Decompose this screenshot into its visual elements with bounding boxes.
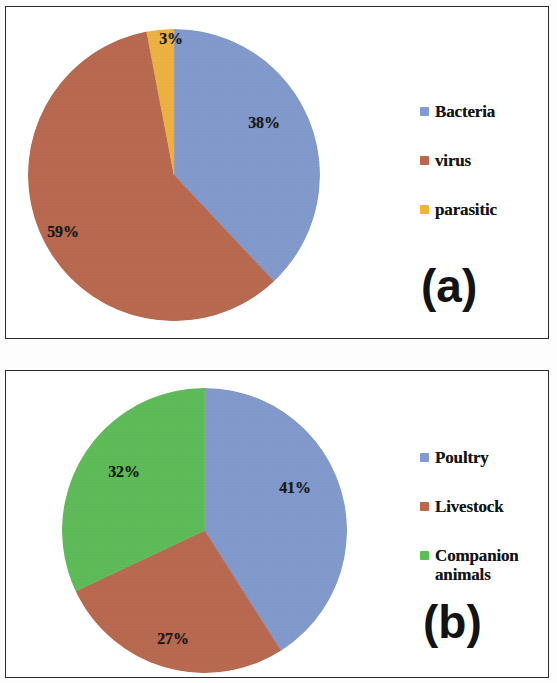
chart-panel-b: 41% 27% 32% Poultry Livestock Companion …	[5, 370, 549, 678]
pie-slices-b	[62, 388, 347, 673]
legend-item-companion-animals[interactable]: Companion animals	[420, 546, 543, 584]
figure-two-pie-charts: 38% 59% 3% Bacteria virus parasitic (a)	[0, 0, 557, 683]
pie-slices-a	[28, 29, 320, 321]
legend-a: Bacteria virus parasitic	[420, 102, 497, 249]
legend-swatch-bacteria	[420, 107, 429, 116]
legend-label-poultry: Poultry	[435, 448, 489, 467]
slice-value-livestock: 27%	[157, 630, 188, 648]
legend-item-bacteria[interactable]: Bacteria	[420, 102, 497, 121]
legend-item-parasitic[interactable]: parasitic	[420, 200, 497, 219]
legend-item-virus[interactable]: virus	[420, 151, 497, 170]
legend-label-parasitic: parasitic	[435, 200, 497, 219]
legend-label-livestock: Livestock	[435, 497, 504, 516]
legend-b: Poultry Livestock Companion animals	[420, 448, 543, 614]
legend-item-poultry[interactable]: Poultry	[420, 448, 543, 467]
chart-panel-a: 38% 59% 3% Bacteria virus parasitic (a)	[5, 6, 549, 339]
legend-swatch-parasitic	[420, 205, 429, 214]
slice-value-virus: 59%	[47, 223, 78, 241]
slice-value-bacteria: 38%	[248, 114, 279, 132]
slice-value-poultry: 41%	[279, 479, 310, 497]
legend-swatch-poultry	[420, 453, 429, 462]
legend-swatch-companion-animals	[420, 551, 429, 560]
legend-label-companion-animals: Companion animals	[435, 546, 543, 584]
pie-chart-b	[62, 388, 347, 673]
panel-tag-b: (b)	[423, 599, 482, 645]
legend-label-bacteria: Bacteria	[435, 102, 495, 121]
legend-swatch-virus	[420, 156, 429, 165]
legend-swatch-livestock	[420, 502, 429, 511]
legend-item-livestock[interactable]: Livestock	[420, 497, 543, 516]
slice-value-companion-animals: 32%	[108, 463, 139, 481]
pie-chart-a	[28, 29, 320, 321]
legend-label-virus: virus	[435, 151, 471, 170]
slice-value-parasitic: 3%	[159, 30, 183, 48]
panel-tag-a: (a)	[421, 263, 477, 309]
